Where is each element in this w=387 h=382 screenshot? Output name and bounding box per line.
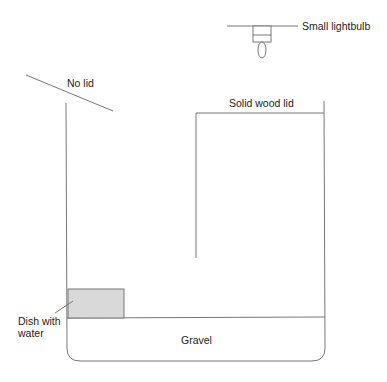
wood-lid-divider	[196, 113, 324, 258]
lightbulb-icon	[253, 26, 271, 58]
no-lid-label: No lid	[67, 77, 94, 89]
wood-lid-label: Solid wood lid	[229, 97, 294, 109]
water-dish	[68, 289, 124, 318]
gravel-label: Gravel	[181, 334, 212, 346]
dish-label-line2: water	[18, 327, 44, 339]
dish-label-line1: Dish with	[18, 315, 61, 327]
lightbulb-label: Small lightbulb	[302, 20, 370, 32]
